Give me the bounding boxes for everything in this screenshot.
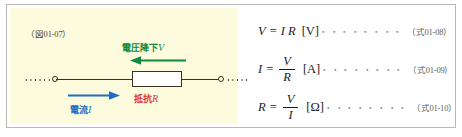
leader-dots: ・・・・・・・・ — [319, 25, 404, 37]
equation-number: （式01-08） — [407, 25, 452, 37]
equation-relation: = — [266, 62, 273, 77]
equation-leader: ・・・・・・・・ （式01-08） — [319, 25, 456, 37]
current-symbol: I — [88, 104, 91, 115]
current-text: 電流 — [70, 105, 88, 115]
equations-column: V = I R [V] ・・・・・・・・ （式01-08） I = V R [A… — [250, 8, 454, 124]
equation-fraction: V I — [283, 93, 299, 122]
figure-caption: （図01-07） — [26, 27, 71, 39]
leader-dots: ・・・・・・・・ — [324, 101, 409, 113]
fraction-denominator: I — [284, 108, 296, 122]
equation-lhs: I — [258, 62, 262, 77]
equation-row: V = I R [V] ・・・・・・・・ （式01-08） — [250, 12, 454, 50]
fraction-numerator: V — [279, 55, 295, 69]
equation-number: （式01-09） — [408, 63, 453, 75]
resistance-text: 抵抗 — [134, 94, 152, 104]
wire-dots-left — [24, 79, 52, 81]
equation-relation: = — [270, 100, 277, 115]
wire-segment-right — [182, 79, 220, 80]
leader-dots: ・・・・・・・・ — [320, 63, 405, 75]
resistance-symbol: R — [152, 93, 158, 104]
fraction-numerator: V — [283, 93, 299, 107]
resistance-label: 抵抗R — [134, 92, 158, 105]
equation-row: R = V I [Ω] ・・・・・・・・ （式01-10） — [250, 88, 454, 126]
equation-expression: I = V R [A] — [250, 55, 320, 84]
equation-rhs: I R — [281, 24, 296, 39]
circuit-diagram-panel: （図01-07） 電圧降下V 電流I 抵抗R — [10, 8, 238, 124]
equation-leader: ・・・・・・・・ （式01-09） — [320, 63, 457, 75]
voltage-drop-text: 電圧降下 — [122, 43, 158, 53]
equation-fraction: V R — [279, 55, 295, 84]
equation-leader: ・・・・・・・・ （式01-10） — [324, 101, 461, 113]
equation-lhs: V — [258, 24, 266, 39]
terminal-right — [218, 76, 224, 82]
equation-number: （式01-10） — [412, 101, 457, 113]
ohms-law-figure: （図01-07） 電圧降下V 電流I 抵抗R — [0, 0, 462, 137]
voltage-drop-label: 電圧降下V — [122, 41, 164, 54]
equation-relation: = — [270, 24, 277, 39]
equation-unit: [Ω] — [306, 100, 324, 115]
wire-segment-left — [56, 79, 134, 80]
equation-expression: V = I R [V] — [250, 24, 319, 39]
current-label: 電流I — [70, 103, 91, 116]
equation-row: I = V R [A] ・・・・・・・・ （式01-09） — [250, 50, 454, 88]
resistor-box — [132, 71, 182, 87]
current-right-arrow-icon — [68, 91, 120, 100]
equation-lhs: R — [258, 100, 266, 115]
voltage-drop-left-arrow-icon — [130, 56, 186, 65]
voltage-drop-symbol: V — [158, 42, 164, 53]
wire-dots-right — [226, 79, 250, 81]
equation-expression: R = V I [Ω] — [250, 93, 324, 122]
equation-unit: [V] — [302, 24, 319, 39]
equation-unit: [A] — [303, 62, 320, 77]
fraction-denominator: R — [279, 70, 295, 84]
